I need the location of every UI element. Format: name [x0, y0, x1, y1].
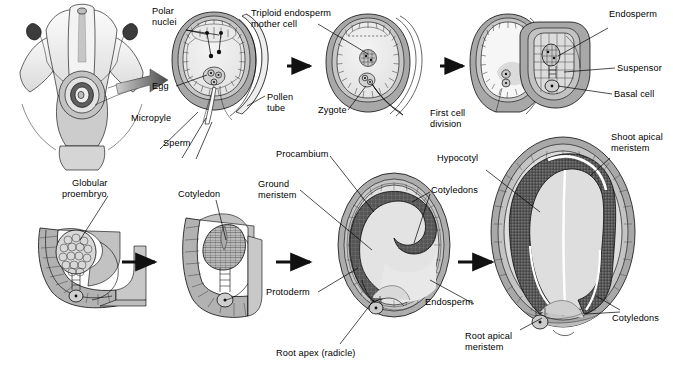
panel-globular — [39, 228, 147, 308]
label-hypocotyl: Hypocotyl — [437, 153, 478, 163]
label-polar-nuclei-line2: nuclei — [152, 17, 177, 27]
label-ground-line2: meristem — [258, 190, 297, 200]
label-globular-line2: proembryo — [62, 189, 107, 199]
label-triploid-line1: Triploid endosperm — [251, 8, 331, 18]
label-root-apex: Root apex (radicle) — [276, 348, 356, 358]
label-root-apical-line1: Root apical — [465, 331, 512, 341]
figure-canvas: Polar nuclei Egg Micropyle Sperm Pollen … — [0, 0, 673, 368]
label-triploid-line2: mother cell — [251, 19, 297, 29]
label-cotyledon: Cotyledon — [178, 189, 220, 199]
label-ground-line1: Ground — [258, 179, 289, 189]
panel-mature-seed — [491, 137, 635, 340]
label-root-apical-line2: meristem — [465, 342, 504, 352]
caption-first-division-line2: division — [430, 119, 461, 129]
label-zygote: Zygote — [318, 105, 347, 115]
label-micropyle: Micropyle — [131, 113, 171, 123]
panel-fertilized-ovule — [326, 14, 422, 116]
label-basal-cell: Basal cell — [614, 89, 654, 99]
label-procambium: Procambium — [276, 149, 329, 159]
label-suspensor: Suspensor — [617, 63, 662, 73]
label-pollen-tube-line2: tube — [267, 103, 285, 113]
panel-cotyledon — [183, 214, 262, 318]
label-protoderm: Protoderm — [266, 287, 310, 297]
label-polar-nuclei-line1: Polar — [152, 6, 174, 16]
caption-first-division-line1: First cell — [430, 108, 465, 118]
label-cotyledons-right: Cotyledons — [612, 313, 659, 323]
label-cotyledons-mid: Cotyledons — [431, 185, 478, 195]
label-pollen-tube-line1: Pollen — [267, 92, 293, 102]
label-globular-line1: Globular — [72, 178, 108, 188]
label-endosperm-top: Endosperm — [609, 9, 657, 19]
label-sperm: Sperm — [163, 138, 191, 148]
panel-suspensor — [520, 22, 590, 108]
label-egg: Egg — [152, 81, 169, 91]
label-endosperm-mid: Endosperm — [425, 297, 473, 307]
label-shoot-apical-line2: meristem — [611, 143, 650, 153]
label-shoot-apical-line1: Shoot apical — [611, 132, 663, 142]
